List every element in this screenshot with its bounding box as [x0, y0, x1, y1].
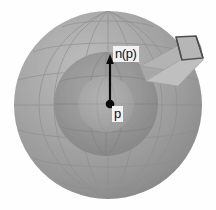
sphere-illustration: [0, 0, 216, 210]
point-p-label: p: [112, 106, 123, 122]
sphere-normal-figure: n(p) p: [0, 0, 216, 210]
normal-vector-label: n(p): [113, 46, 139, 62]
